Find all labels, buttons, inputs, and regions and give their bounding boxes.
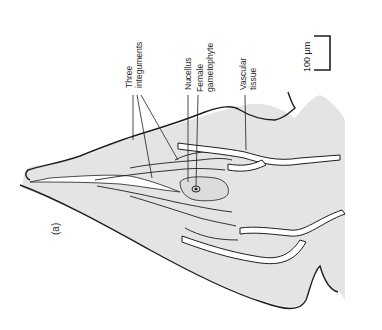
label-three-integuments: Three integuments	[124, 42, 144, 88]
scale-bar	[314, 36, 330, 70]
ovule-body	[22, 95, 345, 307]
label-female-gametophyte: Female gametophyte	[195, 43, 215, 92]
ovule-section-drawing	[0, 0, 382, 330]
label-nucellus: Nucellus	[183, 57, 193, 90]
scale-bar-label: 100 μm	[302, 42, 312, 72]
label-vascular-tissue: Vascular tissue	[238, 58, 258, 90]
panel-label: (a)	[50, 223, 61, 235]
ovule-diagram: Three integuments Nucellus Female gameto…	[0, 0, 382, 330]
